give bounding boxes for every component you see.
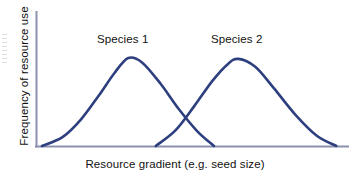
plot-canvas [0,0,355,177]
curve-species-1 [42,57,214,146]
curve-species-2 [156,59,337,146]
x-axis-title: Resource gradient (e.g. seed size) [36,158,314,170]
curve-label-species-2: Species 2 [211,33,262,45]
curve-label-species-1: Species 1 [97,33,148,45]
chart-figure: Species 1 Species 2 Resource gradient (e… [0,0,355,177]
y-axis-title: Frequency of resource use [18,0,30,152]
